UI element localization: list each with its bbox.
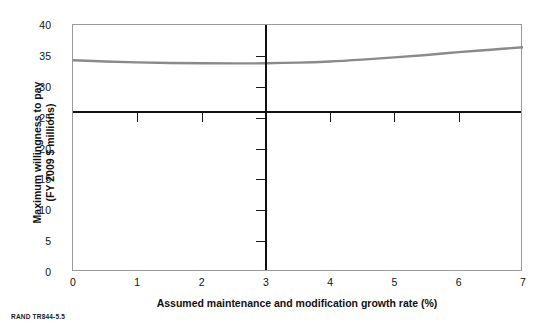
figure-container: Maximum willingness to pay (FY 2009 $ mi… [0, 0, 538, 332]
y-axis-minor-tick [256, 87, 265, 88]
x-axis-tick-label: 2 [187, 276, 217, 288]
y-axis-minor-tick [256, 56, 265, 57]
x-axis-tick-label: 6 [444, 276, 474, 288]
x-axis-tick-label: 3 [251, 276, 281, 288]
x-axis-tick-label: 7 [508, 276, 538, 288]
y-axis-minor-tick [256, 149, 265, 150]
x-axis-minor-tick [330, 113, 331, 122]
y-axis-tick-label: 15 [17, 173, 51, 185]
reference-line-vertical [265, 25, 267, 270]
y-axis-tick-label: 0 [17, 266, 51, 278]
x-axis-minor-tick [394, 113, 395, 122]
x-axis-tick-label: 5 [379, 276, 409, 288]
series-line-maximum-willingness-to-pay [73, 25, 523, 272]
reference-line-horizontal [73, 111, 521, 113]
y-axis-minor-tick [256, 179, 265, 180]
series-path [73, 47, 523, 63]
x-axis-tick-label: 4 [315, 276, 345, 288]
y-axis-tick-label: 30 [17, 81, 51, 93]
x-axis-minor-tick [202, 113, 203, 122]
x-axis-tick-label: 0 [58, 276, 88, 288]
y-axis-tick-label: 25 [17, 112, 51, 124]
plot-area: 051015202530354001234567 [72, 24, 522, 271]
y-axis-minor-tick [256, 241, 265, 242]
y-axis-tick-label: 20 [17, 143, 51, 155]
y-axis-tick-label: 35 [17, 50, 51, 62]
y-axis-tick-label: 10 [17, 204, 51, 216]
x-axis-tick-label: 1 [122, 276, 152, 288]
y-axis-minor-tick [256, 210, 265, 211]
y-axis-tick-label: 5 [17, 235, 51, 247]
x-axis-minor-tick [459, 113, 460, 122]
x-axis-minor-tick [137, 113, 138, 122]
y-axis-tick-label: 40 [17, 19, 51, 31]
y-axis-minor-tick [256, 118, 265, 119]
figure-caption: RAND TR844-5.5 [11, 313, 65, 320]
x-axis-title: Assumed maintenance and modification gro… [72, 297, 522, 309]
